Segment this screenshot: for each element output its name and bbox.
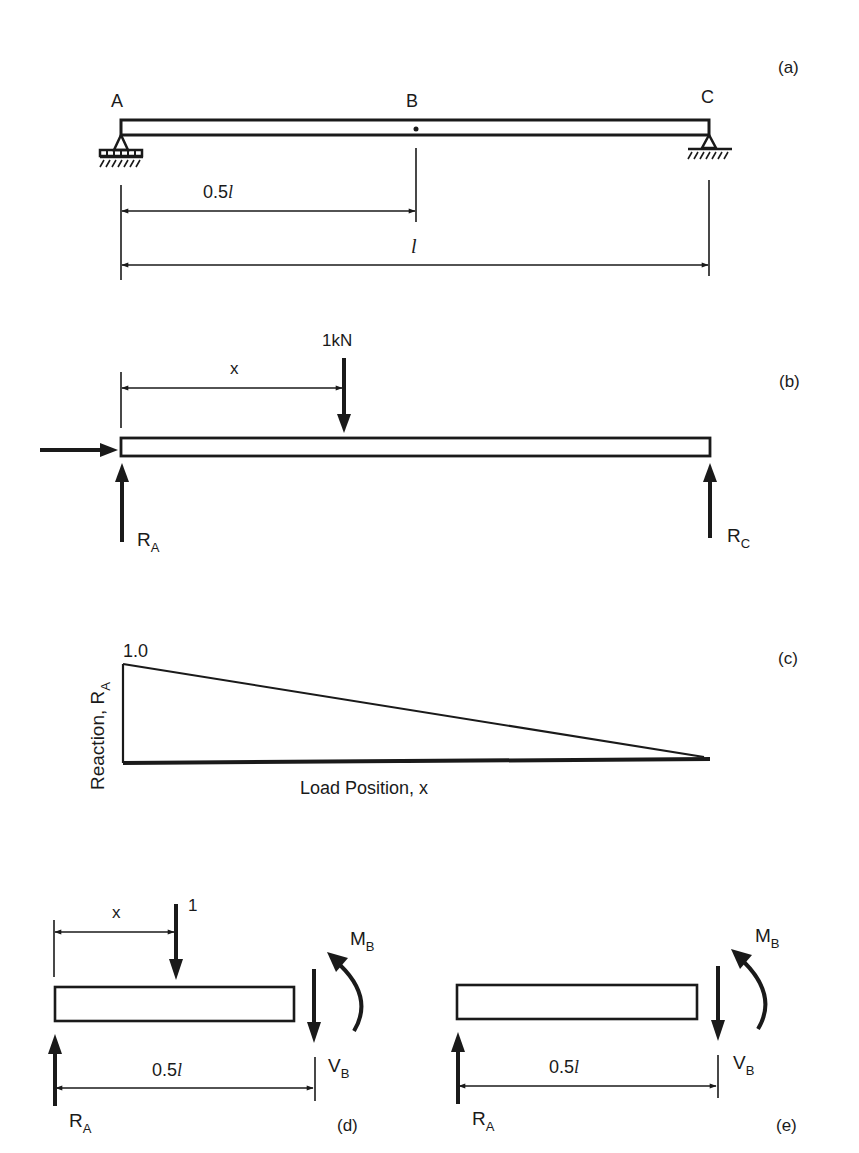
peak-value-label: 1.0 bbox=[123, 641, 148, 661]
point-label-b: B bbox=[406, 91, 418, 111]
arrow-up-icon bbox=[115, 463, 129, 542]
position-var-x: x bbox=[230, 359, 239, 378]
moment-arrow-icon bbox=[731, 949, 765, 1029]
arrow-up-icon bbox=[451, 1032, 465, 1104]
moment-arrow-icon bbox=[327, 952, 361, 1031]
reaction-label-ra: RA bbox=[137, 529, 160, 555]
panel-label-e: (e) bbox=[776, 1116, 797, 1135]
arrow-down-icon bbox=[169, 904, 183, 980]
length-label: 0.5l bbox=[152, 1060, 182, 1080]
pin-support-icon bbox=[688, 135, 732, 159]
dim-full-label: l bbox=[411, 235, 417, 257]
reaction-label-ra: RA bbox=[472, 1108, 495, 1134]
panel-label-a: (a) bbox=[778, 58, 799, 77]
panel-b: (b) 1kN x RA RC bbox=[40, 331, 800, 555]
length-label: 0.5l bbox=[549, 1057, 579, 1077]
beam-segment-ab bbox=[55, 987, 294, 1021]
panel-label-c: (c) bbox=[778, 649, 798, 668]
load-label-1kn: 1kN bbox=[322, 331, 352, 350]
shear-arrow-down-icon bbox=[711, 966, 725, 1041]
position-var-x: x bbox=[112, 903, 121, 922]
roller-support-icon bbox=[100, 135, 143, 167]
moment-label-mb: MB bbox=[350, 928, 375, 954]
influence-line-figure: (a) A B C bbox=[0, 0, 859, 1153]
beam-ac bbox=[121, 438, 710, 456]
dim-half-label: 0.5l bbox=[203, 182, 233, 202]
panel-e: (e) VB MB RA 0.5l bbox=[451, 925, 797, 1135]
dimension-half-span: 0.5l bbox=[121, 148, 416, 280]
panel-label-b: (b) bbox=[779, 372, 800, 391]
shear-arrow-down-icon bbox=[307, 969, 321, 1043]
arrow-down-icon bbox=[337, 358, 351, 433]
panel-a: (a) A B C bbox=[100, 58, 799, 280]
arrow-up-icon bbox=[703, 463, 717, 538]
shear-label-vb: VB bbox=[328, 1055, 349, 1081]
panel-d: (d) 1 x VB MB RA bbox=[48, 896, 375, 1136]
arrow-up-icon bbox=[48, 1034, 62, 1106]
influence-line-triangle bbox=[123, 664, 710, 763]
point-label-c: C bbox=[701, 87, 714, 107]
shear-label-vb: VB bbox=[733, 1052, 754, 1078]
panel-label-d: (d) bbox=[337, 1116, 358, 1135]
hinge-b-icon bbox=[414, 127, 419, 132]
load-label-1: 1 bbox=[188, 896, 197, 915]
x-axis-label: Load Position, x bbox=[300, 778, 428, 798]
panel-c: (c) 1.0 Reaction, RA Load Position, x bbox=[87, 641, 798, 798]
arrow-right-icon bbox=[40, 443, 118, 457]
point-label-a: A bbox=[111, 91, 123, 111]
reaction-label-ra: RA bbox=[69, 1110, 92, 1136]
beam-abc bbox=[121, 120, 709, 135]
moment-label-mb: MB bbox=[755, 925, 780, 951]
beam-segment-ab bbox=[457, 985, 697, 1019]
y-axis-label: Reaction, RA bbox=[87, 682, 113, 790]
reaction-label-rc: RC bbox=[727, 525, 750, 551]
